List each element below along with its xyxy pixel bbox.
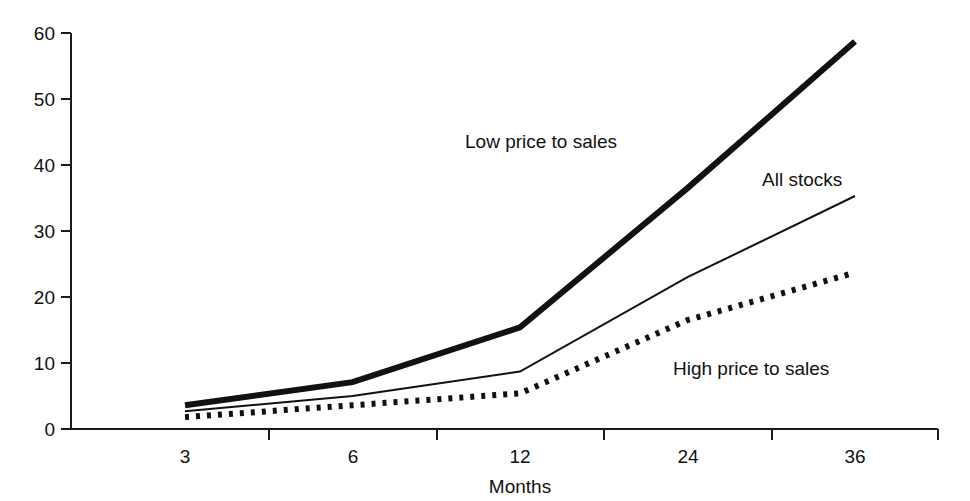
y-tick-label-10: 10 <box>34 353 55 374</box>
y-tick-label-60: 60 <box>34 23 55 44</box>
x-axis-title: Months <box>489 476 551 497</box>
series-line-low-price-to-sales <box>185 42 855 406</box>
y-tick-label-20: 20 <box>34 287 55 308</box>
x-tick-label-24: 24 <box>677 446 699 467</box>
x-tick-label-36: 36 <box>844 446 865 467</box>
x-tick-label-12: 12 <box>509 446 530 467</box>
y-tick-label-40: 40 <box>34 155 55 176</box>
chart-canvas: 60 50 40 30 20 10 0 3 6 12 24 36 Months … <box>0 0 970 501</box>
y-tick-label-0: 0 <box>44 419 55 440</box>
x-tick-label-6: 6 <box>348 446 359 467</box>
series-annotation-all-stocks: All stocks <box>762 169 842 190</box>
series-annotation-high-price-to-sales: High price to sales <box>673 358 829 379</box>
y-tick-label-30: 30 <box>34 221 55 242</box>
series-annotation-low-price-to-sales: Low price to sales <box>465 131 617 152</box>
x-tick-label-3: 3 <box>180 446 191 467</box>
line-chart: 60 50 40 30 20 10 0 3 6 12 24 36 Months … <box>0 0 970 501</box>
series-line-high-price-to-sales <box>185 273 855 418</box>
y-tick-label-50: 50 <box>34 89 55 110</box>
